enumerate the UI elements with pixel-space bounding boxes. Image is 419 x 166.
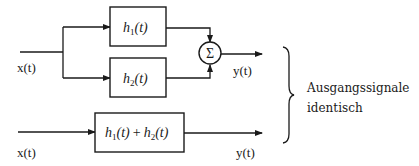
annotation-line-1: Ausgangssignale xyxy=(306,81,409,95)
bottom-output-label: y(t) xyxy=(236,145,255,160)
top-parallel-system: h1(t) h2(t) Σ x(t) y(t) xyxy=(17,7,262,97)
bottom-equivalent-system: h1(t)+h2(t) x(t) y(t) xyxy=(17,113,262,160)
bottom-input-label: x(t) xyxy=(17,145,36,160)
top-output-label: y(t) xyxy=(233,63,252,78)
annotation-line-2: identisch xyxy=(307,101,363,115)
arrow-h2-to-sum xyxy=(166,65,210,78)
sigma-symbol: Σ xyxy=(206,46,214,61)
block-h2-label: h2(t) xyxy=(123,71,148,88)
curly-brace xyxy=(283,47,294,143)
parallel-systems-diagram: h1(t) h2(t) Σ x(t) y(t) h1(t)+h2(t) x(t)… xyxy=(0,0,419,166)
arrow-h1-to-sum xyxy=(166,28,210,42)
top-input-label: x(t) xyxy=(17,60,36,75)
block-h1-label: h1(t) xyxy=(123,20,148,37)
